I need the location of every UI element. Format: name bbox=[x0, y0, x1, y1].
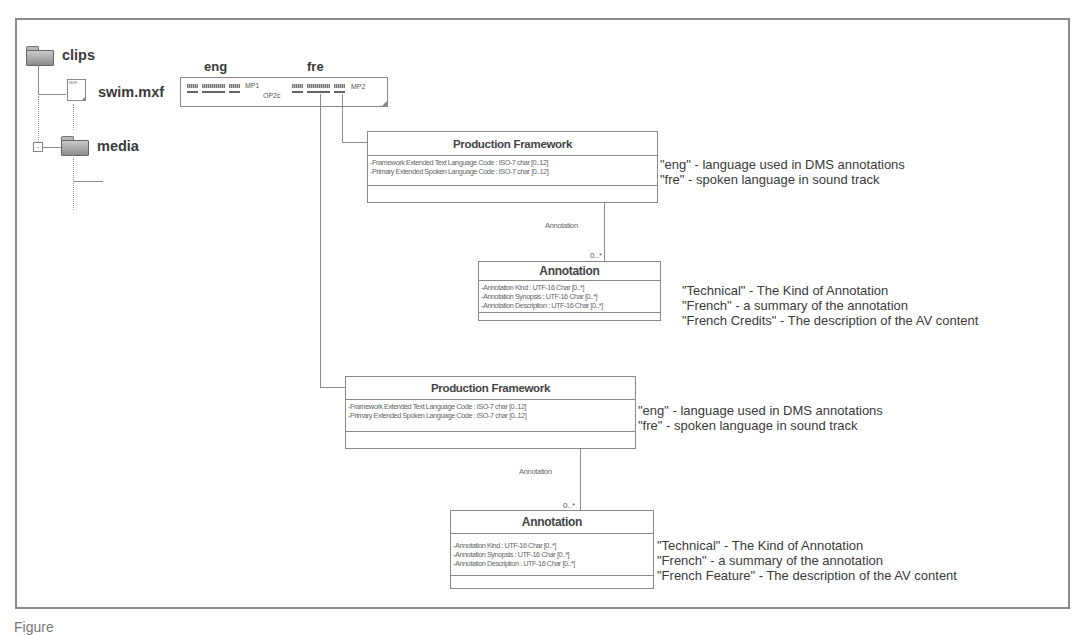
tree-connector bbox=[73, 155, 74, 210]
class-title: Production Framework bbox=[346, 377, 635, 400]
track-underline bbox=[187, 91, 198, 93]
connector-line bbox=[342, 142, 367, 143]
class-title: Annotation bbox=[479, 262, 660, 281]
tree-connector bbox=[73, 104, 74, 130]
class-attribute: -Annotation Synopsis : UTF-16 Char [0..*… bbox=[481, 292, 658, 301]
class-attribute: -Framework Extended Text Language Code :… bbox=[370, 158, 655, 167]
track-underline bbox=[334, 91, 345, 93]
note-line: "French Credits" - The description of th… bbox=[682, 313, 978, 328]
track-underline bbox=[292, 91, 303, 93]
track-block bbox=[187, 84, 198, 88]
track-block-dms bbox=[334, 84, 345, 88]
note-line: "eng" - language used in DMS annotations bbox=[638, 403, 883, 418]
class-attribute: -Annotation Description : UTF-16 Char [0… bbox=[481, 301, 658, 310]
mxf-track-strip: MP1 OP2c MP2 bbox=[180, 77, 388, 107]
note-line: "Technical" - The Kind of Annotation bbox=[682, 283, 978, 298]
class-attribute: -Primary Extended Spoken Language Code :… bbox=[348, 411, 633, 420]
association-label: Annotation bbox=[545, 221, 578, 230]
op2c-label: OP2c bbox=[263, 92, 281, 99]
class-attribute: -Annotation Description : UTF-16 Char [0… bbox=[453, 559, 651, 568]
folder-icon bbox=[61, 136, 87, 154]
class-attribute: -Framework Extended Text Language Code :… bbox=[348, 402, 633, 411]
note-line: "Technical" - The Kind of Annotation bbox=[657, 538, 957, 553]
multiplicity-label: 0..* bbox=[590, 251, 602, 260]
note-line: "fre" - spoken language in sound track bbox=[638, 418, 883, 433]
class-attribute: -Annotation Kind : UTF-16 Char [0..*] bbox=[453, 541, 651, 550]
note-line: "fre" - spoken language in sound track bbox=[660, 172, 905, 187]
tree-item-clips[interactable]: clips bbox=[62, 47, 95, 63]
lang-label-fre: fre bbox=[307, 59, 324, 74]
tree-connector bbox=[74, 181, 103, 182]
track-block bbox=[229, 84, 240, 88]
note-line: "French Feature" - The description of th… bbox=[657, 568, 957, 583]
framework-1-notes: "eng" - language used in DMS annotations… bbox=[660, 157, 905, 187]
track-block-fre-audio bbox=[307, 84, 330, 88]
track-underline bbox=[307, 91, 330, 93]
mp2-label: MP2 bbox=[351, 83, 365, 90]
tree-item-media[interactable]: media bbox=[97, 138, 139, 154]
annotation-box-1[interactable]: Annotation -Annotation Kind : UTF-16 Cha… bbox=[478, 261, 661, 321]
track-underline bbox=[202, 91, 225, 93]
annotation-box-2[interactable]: Annotation -Annotation Kind : UTF-16 Cha… bbox=[450, 510, 654, 589]
class-title: Production Framework bbox=[368, 132, 657, 156]
connector-line bbox=[320, 94, 321, 387]
note-line: "French" - a summary of the annotation bbox=[657, 553, 957, 568]
track-block bbox=[292, 84, 303, 88]
lang-label-eng: eng bbox=[204, 59, 227, 74]
figure-caption: Figure bbox=[14, 619, 54, 635]
production-framework-box-1[interactable]: Production Framework -Framework Extended… bbox=[367, 131, 658, 203]
tree-connector bbox=[38, 94, 66, 95]
tree-connector bbox=[38, 65, 39, 95]
multiplicity-label: 0..* bbox=[563, 501, 575, 510]
tree-connector bbox=[38, 96, 39, 142]
collapse-toggle-icon[interactable]: - bbox=[33, 142, 43, 152]
class-title: Annotation bbox=[451, 511, 653, 534]
association-label: Annotation bbox=[519, 467, 552, 476]
production-framework-box-2[interactable]: Production Framework -Framework Extended… bbox=[345, 376, 636, 449]
annotation-2-notes: "Technical" - The Kind of Annotation "Fr… bbox=[657, 538, 957, 583]
association-line bbox=[604, 203, 605, 261]
mp1-label: MP1 bbox=[245, 82, 259, 89]
class-attribute: -Primary Extended Spoken Language Code :… bbox=[370, 167, 655, 176]
connector-line bbox=[342, 94, 343, 142]
tree-item-swim-mxf[interactable]: swim.mxf bbox=[98, 84, 164, 100]
class-attribute: -Annotation Synopsis : UTF-16 Char [0..*… bbox=[453, 550, 651, 559]
track-underline bbox=[229, 91, 240, 93]
annotation-1-notes: "Technical" - The Kind of Annotation "Fr… bbox=[682, 283, 978, 328]
tree-connector bbox=[43, 147, 61, 148]
class-attribute: -Annotation Kind : UTF-16 Char [0..*] bbox=[481, 283, 658, 292]
track-block bbox=[202, 84, 225, 88]
connector-line bbox=[320, 387, 345, 388]
framework-2-notes: "eng" - language used in DMS annotations… bbox=[638, 403, 883, 433]
mxf-file-icon: MXF bbox=[67, 79, 86, 101]
association-line bbox=[580, 449, 581, 511]
note-line: "eng" - language used in DMS annotations bbox=[660, 157, 905, 172]
folder-icon bbox=[26, 46, 52, 64]
note-line: "French" - a summary of the annotation bbox=[682, 298, 978, 313]
